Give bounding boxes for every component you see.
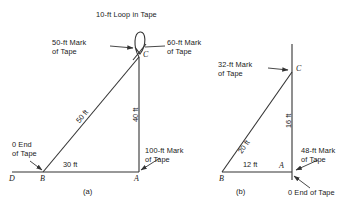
vertex-a-b: A — [279, 161, 284, 170]
caption-a: (a) — [83, 187, 92, 196]
leader-60ft-mark — [145, 46, 165, 47]
figure-title: 10-ft Loop in Tape — [96, 10, 157, 19]
dimension-base-b: 12 ft — [243, 160, 257, 169]
dimension-vertical-a: 40 ft — [131, 108, 140, 122]
dimension-vertical-b: 16 ft — [284, 114, 293, 128]
leader-32ft-mark — [268, 68, 288, 70]
label-32ft-mark: 32-ft Mark of Tape — [218, 60, 252, 78]
label-100ft-mark: 100-ft Mark of Tape — [145, 146, 183, 164]
vertex-d-a: D — [9, 174, 15, 183]
vertex-c-b: C — [296, 64, 301, 73]
leader-0-end-tape-b — [294, 176, 310, 188]
leader-50ft-mark — [110, 46, 133, 48]
figure-linework — [0, 0, 358, 204]
hypotenuse-bc — [43, 57, 139, 172]
label-50ft-mark: 50-ft Mark of Tape — [52, 38, 86, 56]
caption-b: (b) — [236, 187, 245, 196]
label-48ft-mark: 48-ft Mark of Tape — [301, 146, 335, 164]
label-60ft-mark: 60-ft Mark of Tape — [167, 38, 201, 56]
dimension-base-a: 30 ft — [63, 160, 77, 169]
vertex-b-a: B — [40, 174, 45, 183]
survey-tape-figure: 10-ft Loop in Tape 50-ft Mark of Tape 60… — [0, 0, 358, 204]
label-0-end-tape-b: 0 End of Tape — [288, 188, 335, 197]
label-0-end-tape-a: 0 End of Tape — [12, 140, 37, 158]
hypotenuse-bc-b — [222, 72, 292, 172]
vertex-b-b: B — [219, 174, 224, 183]
vertex-a-a: A — [134, 174, 139, 183]
leader-0-end-tape-a — [30, 161, 42, 170]
vertex-c-a: C — [143, 50, 148, 59]
diagram-b-leaders — [268, 68, 318, 188]
